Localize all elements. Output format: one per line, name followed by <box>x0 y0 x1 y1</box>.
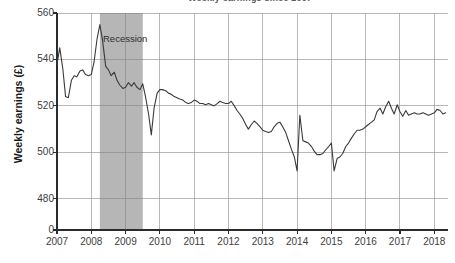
recession-band-icon <box>100 13 143 230</box>
recession-annotation-label: Recession <box>103 33 147 44</box>
chart-container: Weekly earnings since 2007 Weekly earnin… <box>0 0 455 263</box>
plot-area <box>0 0 455 263</box>
